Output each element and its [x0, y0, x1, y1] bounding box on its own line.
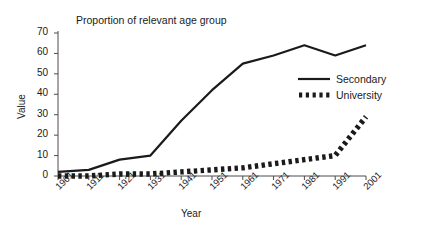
chart-legend — [298, 79, 330, 95]
legend-label-university: University — [336, 89, 382, 101]
data-series — [58, 45, 366, 176]
series-line-secondary — [58, 45, 366, 172]
x-axis-ticks — [58, 176, 366, 180]
plot-area — [0, 0, 421, 229]
axes — [54, 31, 366, 180]
series-line-university — [58, 117, 366, 176]
line-chart: Proportion of relevant age group Value Y… — [0, 0, 421, 229]
legend-label-secondary: Secondary — [336, 73, 386, 85]
y-axis-ticks — [54, 33, 58, 176]
